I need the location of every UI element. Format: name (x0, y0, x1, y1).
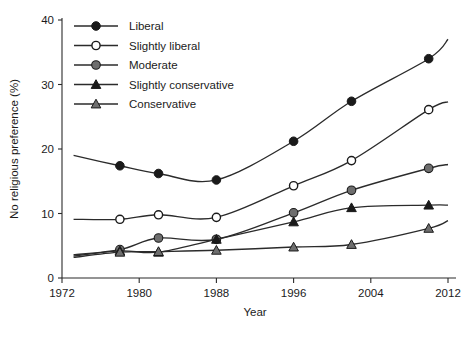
legend-item-slightly-conservative[interactable]: Slightly conservative (74, 79, 234, 91)
data-point-1978 (116, 215, 124, 223)
legend-marker-open-circle (92, 41, 100, 49)
data-point-1982 (154, 211, 162, 219)
data-point-1982 (154, 234, 163, 243)
x-tick-label: 1988 (204, 287, 230, 299)
series-conservative (74, 221, 448, 258)
y-axis-title: No religious preference (%) (8, 79, 20, 219)
data-point-1988 (212, 176, 221, 185)
series-line (74, 164, 448, 254)
x-axis-ticks: 197219801988199620042012 (49, 278, 461, 299)
legend-label: Slightly conservative (129, 79, 234, 91)
legend-marker-grey-circle (92, 61, 101, 70)
data-point-2002 (347, 157, 355, 165)
data-point-1988 (212, 213, 220, 221)
x-tick-label: 1980 (126, 287, 152, 299)
data-point-1982 (154, 169, 163, 178)
legend-label: Conservative (129, 98, 196, 110)
series-line (74, 221, 448, 258)
data-point-1996 (289, 137, 298, 146)
data-point-2002 (347, 97, 356, 106)
x-tick-label: 1996 (281, 287, 307, 299)
series-slightly-conservative (74, 200, 448, 256)
y-tick-label: 30 (41, 79, 54, 91)
data-point-1996 (290, 182, 298, 190)
legend-label: Liberal (129, 20, 164, 32)
data-point-2010 (425, 106, 433, 114)
y-tick-label: 10 (41, 208, 54, 220)
legend-marker-filled-circle (92, 22, 101, 31)
axes (62, 18, 456, 278)
legend-item-slightly-liberal[interactable]: Slightly liberal (74, 40, 200, 52)
data-point-1996 (289, 209, 298, 218)
no-religious-preference-line-chart: 010203040197219801988199620042012YearNo … (0, 0, 464, 341)
series-moderate (74, 164, 448, 255)
legend-label: Slightly liberal (129, 40, 200, 52)
y-tick-label: 40 (41, 14, 54, 26)
x-tick-label: 2012 (435, 287, 461, 299)
y-tick-label: 0 (48, 272, 54, 284)
data-point-2010 (424, 164, 433, 173)
y-tick-label: 20 (41, 143, 54, 155)
legend-item-conservative[interactable]: Conservative (74, 98, 196, 110)
data-point-2010 (424, 54, 433, 63)
x-axis-title: Year (243, 306, 266, 318)
legend: LiberalSlightly liberalModerateSlightly … (74, 20, 234, 110)
x-tick-label: 2004 (358, 287, 384, 299)
data-point-2002 (347, 186, 356, 195)
data-point-1978 (116, 161, 125, 170)
legend-label: Moderate (129, 59, 178, 71)
legend-item-liberal[interactable]: Liberal (74, 20, 164, 32)
y-axis-ticks: 010203040 (41, 14, 62, 284)
x-tick-label: 1972 (49, 287, 75, 299)
series-group (74, 39, 448, 257)
chart-container: 010203040197219801988199620042012YearNo … (0, 0, 464, 341)
legend-item-moderate[interactable]: Moderate (74, 59, 178, 71)
